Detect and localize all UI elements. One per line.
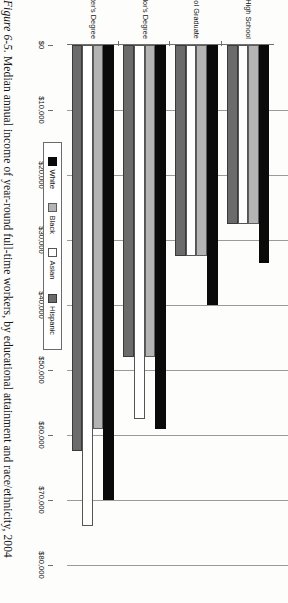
bar-white-high-school-graduate [207, 45, 218, 305]
category-axis-tick [221, 41, 222, 46]
rotated-figure-page: $0$10,000$20,000$30,000$40,000$50,000$60… [0, 0, 288, 603]
legend-item-black: Black [48, 203, 57, 234]
value-axis-tick [48, 565, 53, 566]
figure-number: Figure 6-5. [2, 0, 14, 53]
legend-item-asian: Asian [48, 248, 57, 280]
legend-item-hispanic: Hispanic [48, 294, 57, 336]
bar-hispanic-less-than-high-school [227, 45, 238, 224]
bar-asian-high-school-graduate [186, 45, 197, 256]
category-axis-tick [170, 41, 171, 46]
category-axis-label: Less Than High School [244, 0, 253, 39]
bar-white-bachelor-s-degree [155, 45, 166, 429]
legend-swatch-black-icon [48, 203, 57, 212]
value-axis-tick [48, 500, 53, 501]
bar-white-master-s-degree [103, 45, 114, 500]
value-axis-tick-label: $0 [37, 41, 46, 49]
value-axis-tick-label: $10,000 [37, 96, 46, 123]
bar-asian-less-than-high-school [238, 45, 249, 224]
value-axis-tick-label: $60,000 [37, 421, 46, 448]
value-axis-tick [48, 110, 53, 111]
bar-asian-master-s-degree [82, 45, 93, 526]
bar-chart-plot: $0$10,000$20,000$30,000$40,000$50,000$60… [67, 44, 274, 564]
category-axis-label: Master's Degree [88, 0, 97, 39]
legend-swatch-hispanic-icon [48, 294, 57, 303]
bar-black-bachelor-s-degree [145, 45, 156, 357]
gridline [67, 500, 288, 501]
value-axis-tick [48, 45, 53, 46]
value-axis-tick-label: $80,000 [37, 551, 46, 578]
legend-swatch-white-icon [48, 157, 57, 166]
value-axis-tick-label: $70,000 [37, 486, 46, 513]
value-axis-tick [48, 370, 53, 371]
bar-black-less-than-high-school [248, 45, 259, 224]
bar-hispanic-high-school-graduate [175, 45, 186, 256]
legend-swatch-asian-icon [48, 248, 57, 257]
bar-asian-bachelor-s-degree [134, 45, 145, 419]
legend-label: Black [48, 215, 57, 234]
bar-hispanic-master-s-degree [72, 45, 83, 451]
figure-caption: Figure 6-5. Median annual income of year… [2, 0, 14, 600]
legend-label: Asian [48, 261, 57, 280]
bar-black-high-school-graduate [196, 45, 207, 256]
legend-label: White [48, 170, 57, 189]
bar-black-master-s-degree [93, 45, 104, 429]
category-axis-label: High School Graduate [192, 0, 201, 39]
figure-plot-area: $0$10,000$20,000$30,000$40,000$50,000$60… [30, 0, 288, 603]
category-axis-label: Bachelor's Degree [140, 0, 149, 39]
gridline [67, 435, 288, 436]
legend-label: Hispanic [48, 306, 57, 335]
figure-caption-text: Median annual income of year-round full-… [2, 53, 14, 558]
chart-legend: WhiteBlackAsianHispanic [43, 142, 62, 350]
category-axis-tick [118, 41, 119, 46]
legend-item-white: White [48, 157, 57, 189]
gridline [67, 565, 288, 566]
value-axis-tick-label: $50,000 [37, 356, 46, 383]
value-axis-tick [48, 435, 53, 436]
bar-hispanic-bachelor-s-degree [123, 45, 134, 357]
bar-white-less-than-high-school [259, 45, 270, 263]
